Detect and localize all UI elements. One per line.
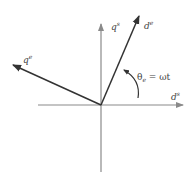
qe-label: qe bbox=[23, 53, 33, 65]
qe-axis bbox=[13, 65, 101, 105]
dq-frame-diagram: qs de qe ds θe = ωt bbox=[0, 0, 190, 182]
de-axis bbox=[101, 16, 139, 105]
ds-label: ds bbox=[171, 90, 180, 102]
de-label: de bbox=[144, 19, 154, 31]
qs-label: qs bbox=[111, 20, 120, 32]
angle-label: θe = ωt bbox=[137, 72, 171, 83]
